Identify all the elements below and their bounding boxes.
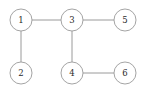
graph-node-6: 6 bbox=[114, 62, 136, 84]
graph-node-4: 4 bbox=[61, 62, 83, 84]
graph-node-2: 2 bbox=[10, 62, 32, 84]
graph-node-3: 3 bbox=[61, 9, 83, 31]
graph-node-1: 1 bbox=[10, 9, 32, 31]
graph-diagram: 123456 bbox=[0, 0, 145, 93]
node-label-4: 4 bbox=[69, 68, 74, 78]
nodes-layer: 123456 bbox=[10, 9, 136, 84]
node-label-5: 5 bbox=[122, 15, 127, 25]
graph-node-5: 5 bbox=[114, 9, 136, 31]
node-label-1: 1 bbox=[18, 15, 23, 25]
node-label-3: 3 bbox=[69, 15, 74, 25]
graph-canvas: 123456 bbox=[0, 0, 145, 93]
node-label-2: 2 bbox=[18, 68, 23, 78]
node-label-6: 6 bbox=[122, 68, 127, 78]
